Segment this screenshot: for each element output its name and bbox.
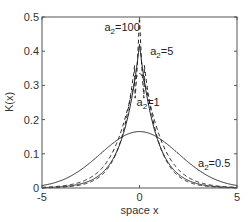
- x-axis-label: space x: [121, 204, 159, 216]
- y-tick-label: 0.3: [24, 79, 39, 91]
- y-tick-label: 0.2: [24, 114, 39, 126]
- y-tick-label: 0.1: [24, 148, 39, 160]
- y-axis-label: K(x): [3, 92, 15, 112]
- annotation-label: a2=100: [104, 21, 139, 36]
- y-tick-label: 0.4: [24, 45, 39, 57]
- curve-annotations: a2=100a2=5a2=1a2=0.5: [104, 21, 230, 173]
- x-tick-label: 5: [234, 191, 240, 203]
- annotation-label: a2=0.5: [198, 157, 230, 172]
- x-tick-label: 0: [136, 191, 142, 203]
- y-tick-label: 0.5: [24, 11, 39, 23]
- annotation-label: a2=5: [150, 45, 173, 60]
- annotation-label: a2=1: [137, 96, 160, 111]
- x-tick-label: -5: [37, 191, 47, 203]
- chart: 00.10.20.30.40.5 -505 a2=100a2=5a2=1a2=0…: [0, 0, 248, 222]
- x-axis-ticks: -505: [37, 17, 240, 203]
